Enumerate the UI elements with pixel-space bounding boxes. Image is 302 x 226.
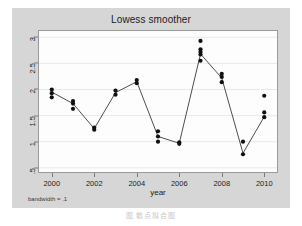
data-point xyxy=(262,94,266,98)
x-tick-label: 2008 xyxy=(213,179,230,188)
y-tick-label: 1 xyxy=(28,142,37,146)
chart-figure: Lowess smoother .511.522.53 200020022004… xyxy=(12,8,290,208)
data-point xyxy=(156,129,160,133)
data-point xyxy=(241,140,245,144)
data-point xyxy=(50,95,54,99)
data-point xyxy=(241,152,245,156)
data-point xyxy=(262,115,266,119)
data-point xyxy=(198,39,202,43)
data-point xyxy=(50,87,54,91)
data-point xyxy=(177,142,181,146)
data-point-group xyxy=(50,39,267,157)
data-point xyxy=(135,81,139,85)
data-point xyxy=(156,134,160,138)
x-tick-mark xyxy=(179,173,180,177)
x-tick-mark xyxy=(137,173,138,177)
x-tick-label: 2010 xyxy=(256,179,273,188)
data-point xyxy=(71,101,75,105)
x-tick-label: 2006 xyxy=(171,179,188,188)
x-tick-mark xyxy=(222,173,223,177)
data-point xyxy=(220,75,224,79)
data-point xyxy=(262,110,266,114)
y-tick-label: 2 xyxy=(28,89,37,93)
y-tick-label: 2.5 xyxy=(28,63,37,73)
y-tick-label: 3 xyxy=(28,37,37,41)
figure-caption: 图 散点拟合图 xyxy=(0,210,302,220)
data-point xyxy=(220,80,224,84)
data-point xyxy=(71,107,75,111)
x-tick-mark xyxy=(94,173,95,177)
x-tick-mark xyxy=(264,173,265,177)
data-point xyxy=(50,91,54,95)
data-point xyxy=(198,59,202,63)
x-tick-label: 2000 xyxy=(43,179,60,188)
chart-title: Lowess smoother xyxy=(12,14,290,25)
data-point xyxy=(113,88,117,92)
x-axis-title: year xyxy=(38,188,278,197)
x-tick-label: 2002 xyxy=(86,179,103,188)
y-axis: .511.522.53 xyxy=(12,30,38,173)
x-tick-label: 2004 xyxy=(128,179,145,188)
y-tick-label: .5 xyxy=(28,168,37,174)
plot-area xyxy=(38,30,278,173)
data-point xyxy=(156,140,160,144)
data-point xyxy=(113,93,117,97)
data-point xyxy=(198,52,202,56)
y-tick-label: 1.5 xyxy=(28,116,37,126)
bandwidth-note: bandwidth = .1 xyxy=(28,196,67,202)
x-tick-mark xyxy=(52,173,53,177)
scatter-plot-svg xyxy=(39,31,277,172)
data-point xyxy=(92,128,96,132)
